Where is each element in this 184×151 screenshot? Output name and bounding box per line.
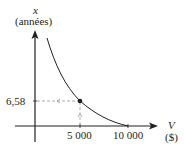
guide-up-arrow-icon	[78, 114, 82, 117]
x-tick-label-5000: 5 000	[67, 130, 92, 141]
curve-x-of-V	[47, 38, 128, 126]
x-axis-var-label: V	[168, 120, 175, 131]
y-tick-label: 6,58	[6, 96, 25, 107]
y-axis-unit-label: (années)	[15, 16, 52, 27]
x-tick-label-10000: 10 000	[113, 130, 143, 141]
x-axis-unit-label: ($)	[165, 132, 178, 143]
highlight-point	[78, 99, 83, 104]
